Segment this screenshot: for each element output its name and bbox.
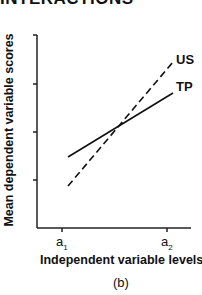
x-tick-label-a2: a2 [161,234,173,252]
x-axis-label: Independent variable levels [40,253,202,267]
series-line-us [68,62,173,186]
figure-caption: (b) [113,275,129,290]
series-label-tp: TP [176,79,193,94]
series-label-us: US [176,52,194,67]
x-tick-label-a1: a1 [56,234,68,252]
